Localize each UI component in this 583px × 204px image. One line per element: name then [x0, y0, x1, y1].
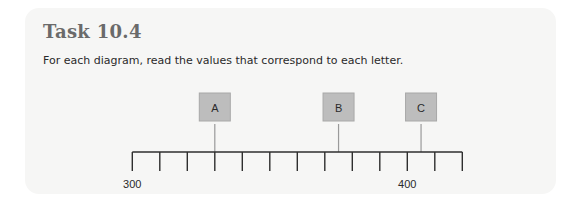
number-line-diagram: ABC 300400 — [0, 0, 583, 204]
tick-label: 400 — [398, 178, 416, 190]
marker-stems — [215, 124, 421, 152]
tick-labels: 300400 — [123, 178, 416, 190]
number-line-axis — [132, 152, 462, 171]
marker-letter-b: B — [335, 102, 342, 114]
marker-letter-a: A — [211, 102, 219, 114]
marker-letter-c: C — [417, 102, 425, 114]
tick-label: 300 — [123, 178, 141, 190]
marker-boxes: ABC — [199, 93, 436, 121]
